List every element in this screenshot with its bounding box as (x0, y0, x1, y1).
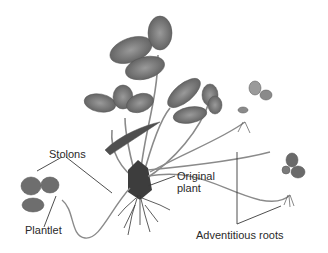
adventitious-roots-right (238, 122, 294, 207)
adventitious-roots-label: Adventitious roots (196, 229, 283, 241)
original-plant-label-line2: plant (177, 182, 201, 194)
plant-illustration (0, 0, 328, 253)
stolons-label: Stolons (49, 148, 86, 160)
leaves (21, 16, 305, 212)
crown (128, 160, 152, 200)
stolons (62, 122, 290, 238)
strawberry-diagram: Stolons Plantlet Original plant Adventit… (0, 0, 328, 253)
plantlet-label: Plantlet (25, 224, 62, 236)
leader-lines (37, 152, 281, 227)
original-plant-label-line1: Original (177, 170, 215, 182)
roots (118, 195, 170, 235)
